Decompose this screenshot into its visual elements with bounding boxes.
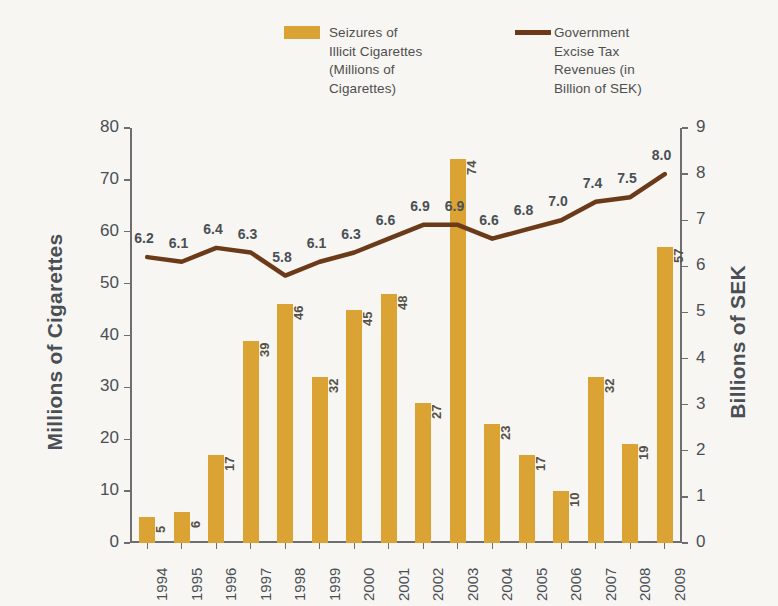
line-point-value-label: 6.3 — [238, 226, 257, 242]
line-point-value-label: 6.2 — [134, 230, 153, 246]
x-axis-tick-label: 2009 — [671, 568, 688, 601]
y-axis-right-tick — [682, 496, 688, 497]
y-axis-right-tick — [682, 542, 688, 543]
x-axis-tick-label: 1998 — [291, 568, 308, 601]
line-point-value-label: 6.9 — [445, 198, 464, 214]
x-axis-tick-label: 2001 — [395, 568, 412, 601]
x-axis-tick-label: 2007 — [602, 568, 619, 601]
legend-line-label: Government Excise Tax Revenues (in Billi… — [554, 24, 642, 98]
line-point-value-label: 6.9 — [410, 198, 429, 214]
y-axis-right-tick — [682, 404, 688, 405]
y-axis-right-tick-label: 8 — [696, 163, 756, 183]
chart-figure: Seizures of Illicit Cigarettes (Millions… — [0, 0, 778, 606]
x-axis-tick-label: 2008 — [636, 568, 653, 601]
line-point-value-label: 6.3 — [341, 226, 360, 242]
y-axis-left-tick-label: 20 — [59, 428, 119, 448]
line-point-value-label: 6.8 — [514, 202, 533, 218]
legend-item-bar-series: Seizures of Illicit Cigarettes (Millions… — [284, 24, 422, 98]
x-axis-tick — [181, 543, 182, 549]
legend-line-swatch-icon — [515, 30, 551, 35]
line-point-value-label: 6.4 — [203, 221, 222, 237]
legend-bar-label: Seizures of Illicit Cigarettes (Millions… — [329, 24, 422, 98]
line-point-value-label: 7.0 — [548, 193, 567, 209]
y-axis-left-tick-label: 70 — [59, 169, 119, 189]
x-axis-tick — [319, 543, 320, 549]
y-axis-right-tick-label: 1 — [696, 486, 756, 506]
x-axis-tick — [630, 543, 631, 549]
y-axis-left-tick-label: 10 — [59, 480, 119, 500]
line-point-value-label: 7.4 — [583, 175, 602, 191]
line-point-value-label: 6.1 — [307, 235, 326, 251]
y-axis-right-tick — [682, 450, 688, 451]
y-axis-left-tick-label: 0 — [59, 532, 119, 552]
y-axis-left-tick-label: 80 — [59, 117, 119, 137]
y-axis-left-tick-label: 50 — [59, 273, 119, 293]
y-axis-right-tick-label: 2 — [696, 440, 756, 460]
x-axis-tick-label: 2005 — [533, 568, 550, 601]
y-axis-left-tick-label: 40 — [59, 325, 119, 345]
legend-item-line-series: Government Excise Tax Revenues (in Billi… — [515, 24, 642, 98]
x-axis-tick — [457, 543, 458, 549]
x-axis-tick-label: 1994 — [153, 568, 170, 601]
x-axis-tick-label: 2004 — [498, 568, 515, 601]
x-axis-tick — [595, 543, 596, 549]
y-axis-right-tick-label: 7 — [696, 209, 756, 229]
y-axis-right-tick-label: 3 — [696, 394, 756, 414]
line-point-value-label: 6.6 — [479, 212, 498, 228]
line-point-value-label: 6.6 — [376, 212, 395, 228]
x-axis-tick-label: 2000 — [360, 568, 377, 601]
x-axis-tick-label: 1995 — [188, 568, 205, 601]
y-axis-right-tick — [682, 220, 688, 221]
x-axis-tick-label: 1999 — [326, 568, 343, 601]
x-axis-tick-label: 2002 — [429, 568, 446, 601]
x-axis-tick — [147, 543, 148, 549]
y-axis-right-tick — [682, 127, 688, 128]
y-axis-right-tick-label: 4 — [696, 348, 756, 368]
y-axis-right-tick — [682, 312, 688, 313]
y-axis-right-tick — [682, 358, 688, 359]
y-axis-right-tick-label: 0 — [696, 532, 756, 552]
x-axis-tick-label: 2003 — [464, 568, 481, 601]
x-axis-tick — [285, 543, 286, 549]
y-axis-right-tick — [682, 173, 688, 174]
line-point-value-label: 6.1 — [169, 235, 188, 251]
x-axis-tick — [526, 543, 527, 549]
line-point-value-label: 8.0 — [652, 147, 671, 163]
line-point-value-label: 5.8 — [272, 249, 291, 265]
x-axis-tick-label: 1996 — [222, 568, 239, 601]
x-axis-tick-label: 2006 — [567, 568, 584, 601]
line-point-value-label: 7.5 — [617, 170, 636, 186]
chart-legend: Seizures of Illicit Cigarettes (Millions… — [0, 0, 778, 120]
y-axis-left-tick-label: 60 — [59, 221, 119, 241]
plot-area: 0102030405060708001234567895199461995171… — [130, 128, 682, 543]
y-axis-right-tick-label: 9 — [696, 117, 756, 137]
x-axis-tick — [561, 543, 562, 549]
x-axis-tick — [388, 543, 389, 549]
x-axis-tick — [664, 543, 665, 549]
x-axis-tick — [354, 543, 355, 549]
x-axis-tick — [216, 543, 217, 549]
y-axis-right-tick-label: 5 — [696, 301, 756, 321]
x-axis-tick — [423, 543, 424, 549]
y-axis-right-tick-label: 6 — [696, 255, 756, 275]
legend-bar-swatch-icon — [284, 26, 320, 39]
x-axis-tick — [250, 543, 251, 549]
y-axis-left-tick-label: 30 — [59, 376, 119, 396]
x-axis-tick-label: 1997 — [257, 568, 274, 601]
x-axis-tick — [492, 543, 493, 549]
y-axis-right-tick — [682, 266, 688, 267]
